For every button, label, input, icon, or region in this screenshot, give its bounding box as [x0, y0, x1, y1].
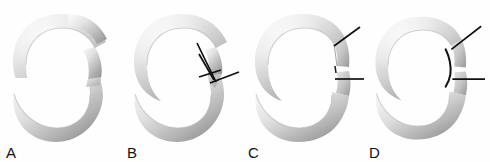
panel-d-illustration — [363, 0, 485, 162]
panel-a-label: A — [6, 145, 16, 160]
panel-a-illustration — [0, 0, 122, 162]
panel-d-label: D — [369, 145, 380, 160]
lower-cut-face — [453, 71, 467, 95]
panel-c: C — [242, 0, 364, 162]
panel-c-label: C — [248, 145, 259, 160]
inner-notch-mark — [335, 66, 336, 73]
panel-b: B — [121, 0, 243, 162]
panel-c-illustration — [242, 0, 364, 162]
panel-b-label: B — [127, 145, 137, 160]
lower-cut-face — [336, 71, 351, 96]
ring-lower-arc — [255, 92, 349, 142]
panel-d: D — [363, 0, 485, 162]
ring-lower-arc — [376, 92, 466, 140]
figure-root: A — [0, 0, 490, 162]
inner-arc-mark — [446, 49, 451, 86]
ring-upper-tail — [83, 47, 102, 80]
panel-a: A — [0, 0, 122, 162]
panel-b-illustration — [121, 0, 243, 162]
